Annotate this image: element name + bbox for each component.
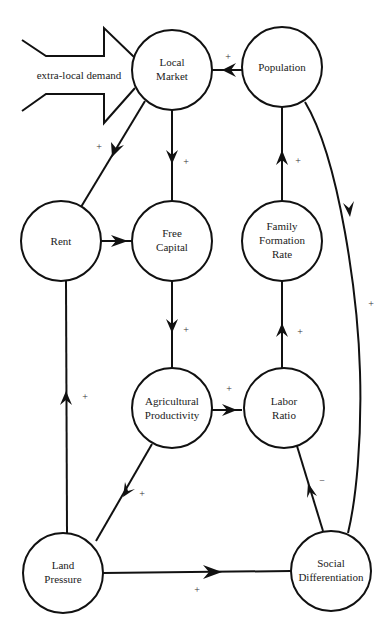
edge-sign: + <box>226 383 232 394</box>
extra-local-demand-arrow: extra-local demand <box>22 28 135 123</box>
edge-sign: + <box>183 324 189 335</box>
edge-agricultural-productivity-to-land-pressure: + <box>96 444 152 541</box>
node-label: Free <box>162 227 182 239</box>
node-label: Ratio <box>272 409 296 421</box>
node-family-formation-rate: Family Formation Rate <box>242 201 322 281</box>
node-label: Formation <box>259 234 305 246</box>
node-local-market: Local Market <box>132 30 212 110</box>
node-label: Differentiation <box>298 571 364 583</box>
edge-population-to-social-differentiation: + <box>305 102 374 533</box>
edges: + + + + + <box>60 51 374 595</box>
edge-sign: + <box>297 326 303 337</box>
node-agricultural-productivity: Agricultural Productivity <box>132 368 212 448</box>
node-label: Rate <box>272 248 292 260</box>
node-label: Family <box>266 220 298 232</box>
arrowhead-icon <box>343 201 354 217</box>
node-label: Social <box>317 557 345 569</box>
edge-sign: + <box>183 156 189 167</box>
node-label: Local <box>159 56 184 68</box>
extra-local-demand-label: extra-local demand <box>37 69 122 81</box>
edge-sign: + <box>96 141 102 152</box>
node-label: Labor <box>271 395 298 407</box>
node-label: Productivity <box>145 409 200 421</box>
node-social-differentiation: Social Differentiation <box>291 531 371 611</box>
edge-agricultural-productivity-to-labor-ratio: + <box>212 383 242 416</box>
node-label: Market <box>156 70 188 82</box>
arrowhead-icon <box>111 142 124 157</box>
node-rent: Rent <box>21 201 101 281</box>
edge-local-market-to-rent: + <box>81 101 145 207</box>
edge-local-market-to-free-capital: + <box>166 110 189 201</box>
edge-sign: − <box>319 475 325 486</box>
edge-land-pressure-to-rent: + <box>60 281 88 533</box>
causal-loop-diagram: extra-local demand + + + <box>0 0 392 637</box>
edge-sign: + <box>368 298 374 309</box>
node-label: Agricultural <box>145 395 199 407</box>
edge-rent-to-free-capital <box>100 235 132 247</box>
edge-free-capital-to-agricultural-productivity: + <box>166 281 189 368</box>
node-label: Capital <box>156 241 188 253</box>
edge-family-formation-to-population: + <box>276 107 301 201</box>
node-population: Population <box>242 27 322 107</box>
edge-sign: + <box>225 51 231 62</box>
node-label: Rent <box>51 235 72 247</box>
node-labor-ratio: Labor Ratio <box>244 368 324 448</box>
node-label: Pressure <box>44 573 81 585</box>
edge-labor-ratio-to-family-formation: + <box>276 281 303 368</box>
node-land-pressure: Land Pressure <box>23 533 103 613</box>
edge-social-differentiation-to-labor-ratio: − <box>297 446 325 531</box>
node-label: Land <box>52 559 75 571</box>
node-free-capital: Free Capital <box>132 201 212 281</box>
node-label: Population <box>258 61 306 73</box>
edge-population-to-local-market: + <box>212 51 242 77</box>
edge-sign: + <box>139 488 145 499</box>
edge-sign: + <box>295 155 301 166</box>
edge-land-pressure-to-social-differentiation: + <box>103 565 291 595</box>
edge-sign: + <box>82 391 88 402</box>
edge-sign: + <box>194 584 200 595</box>
